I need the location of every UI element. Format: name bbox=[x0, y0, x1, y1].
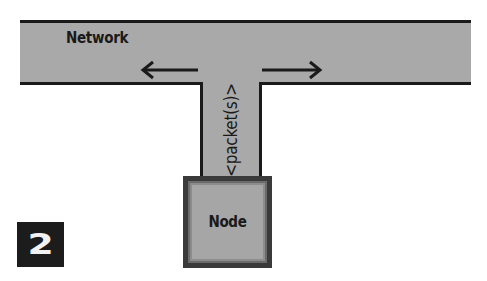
arrow-left-icon bbox=[140, 60, 200, 80]
node-label: Node bbox=[208, 213, 246, 231]
arrow-right-icon bbox=[262, 60, 324, 80]
packet-label: <packet(s)> bbox=[221, 83, 241, 176]
figure-number-badge: 2 bbox=[17, 222, 64, 267]
node-box: Node bbox=[183, 176, 272, 268]
figure-number: 2 bbox=[27, 231, 53, 259]
network-diagram: Network <packet(s)> Node 2 bbox=[0, 0, 487, 281]
network-label: Network bbox=[66, 29, 128, 47]
